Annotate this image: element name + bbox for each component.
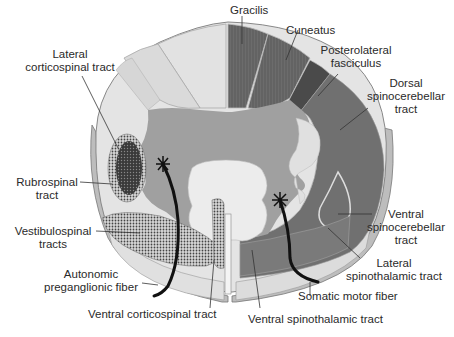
label-somatic-motor-fiber: Somatic motor fiber xyxy=(298,290,398,303)
label-dorsal-sc-line2: spinocerebellar xyxy=(362,90,450,103)
label-lateral-st-line1: Lateral xyxy=(336,257,452,270)
label-ventral-spinocerebellar-tract: Ventral spinocerebellar tract xyxy=(362,208,450,247)
label-dorsal-spinocerebellar-tract: Dorsal spinocerebellar tract xyxy=(362,77,450,116)
label-ventral-sc-line3: tract xyxy=(362,234,450,247)
label-rubrospinal-line2: tract xyxy=(14,189,80,202)
label-lateral-corticospinal-tract: Lateral corticospinal tract xyxy=(20,48,120,74)
label-lateral-cs-line1: Lateral xyxy=(20,48,120,61)
label-rubrospinal-line1: Rubrospinal xyxy=(14,176,80,189)
label-vestibulospinal-line1: Vestibulospinal xyxy=(10,225,96,238)
label-lateral-cs-line2: corticospinal tract xyxy=(20,61,120,74)
label-vestibulospinal-line2: tracts xyxy=(10,238,96,251)
label-ventral-corticospinal-tract: Ventral corticospinal tract xyxy=(88,308,216,321)
label-dorsal-sc-line3: tract xyxy=(362,103,450,116)
somatic-neuron-star xyxy=(272,192,288,208)
ventral-corticospinal-tract xyxy=(212,199,224,269)
autonomic-neuron-star xyxy=(156,156,170,172)
label-ventral-sc-line1: Ventral xyxy=(362,208,450,221)
label-lateral-spinothalamic-tract: Lateral spinothalamic tract xyxy=(336,257,452,283)
label-cuneatus: Cuneatus xyxy=(286,24,335,37)
label-rubrospinal-tract: Rubrospinal tract xyxy=(14,176,80,202)
label-posterolateral-line2: fasciculus xyxy=(316,57,396,70)
label-autonomic-preganglionic-fiber: Autonomic preganglionic fiber xyxy=(36,268,146,294)
ventral-median-fissure xyxy=(225,214,231,294)
label-vestibulospinal-tracts: Vestibulospinal tracts xyxy=(10,225,96,251)
label-ventral-spinothalamic-tract: Ventral spinothalamic tract xyxy=(248,313,383,326)
label-dorsal-sc-line1: Dorsal xyxy=(362,77,450,90)
label-ventral-sc-line2: spinocerebellar xyxy=(362,221,450,234)
lateral-corticospinal-core xyxy=(116,141,142,195)
label-autonomic-line1: Autonomic xyxy=(36,268,146,281)
label-autonomic-line2: preganglionic fiber xyxy=(36,281,146,294)
label-gracilis: Gracilis xyxy=(230,4,268,17)
label-posterolateral-fasciculus: Posterolateral fasciculus xyxy=(316,44,396,70)
label-posterolateral-line1: Posterolateral xyxy=(316,44,396,57)
label-lateral-st-line2: spinothalamic tract xyxy=(336,270,452,283)
